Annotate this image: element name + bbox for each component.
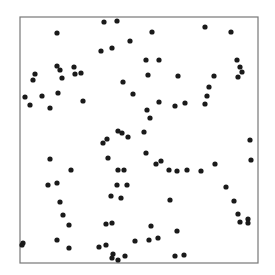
data-point: [239, 69, 244, 74]
data-point: [55, 90, 60, 95]
data-point: [149, 29, 154, 34]
data-point: [101, 19, 106, 24]
data-point: [39, 93, 44, 98]
data-point: [72, 71, 77, 76]
data-point: [105, 155, 110, 160]
data-point: [103, 242, 108, 247]
data-point: [120, 79, 125, 84]
data-point: [237, 64, 242, 69]
data-point: [54, 180, 59, 185]
data-point: [235, 74, 240, 79]
data-point: [80, 98, 85, 103]
data-point: [148, 223, 153, 228]
data-point: [143, 57, 148, 62]
data-point: [78, 70, 83, 75]
data-point: [156, 57, 161, 62]
data-point: [66, 245, 71, 250]
data-point: [167, 197, 172, 202]
data-point: [248, 157, 253, 162]
data-point: [119, 130, 124, 135]
data-point: [228, 29, 233, 34]
data-point: [202, 101, 207, 106]
data-point: [184, 167, 189, 172]
data-point: [141, 129, 146, 134]
data-point: [147, 115, 152, 120]
data-point: [153, 161, 158, 166]
data-point: [172, 253, 177, 258]
scatter-plot: [0, 0, 275, 275]
data-point: [235, 211, 240, 216]
data-point: [206, 84, 211, 89]
data-point: [66, 222, 71, 227]
data-point: [68, 167, 73, 172]
data-point: [54, 30, 59, 35]
data-point: [204, 93, 209, 98]
data-point: [182, 100, 187, 105]
data-point: [181, 252, 186, 257]
data-point: [59, 75, 64, 80]
data-point: [60, 212, 65, 217]
data-point: [57, 67, 62, 72]
data-point: [127, 38, 132, 43]
data-point: [146, 237, 151, 242]
data-point: [174, 168, 179, 173]
data-point: [109, 220, 114, 225]
data-point: [118, 195, 123, 200]
data-point: [100, 140, 105, 145]
data-point: [45, 182, 50, 187]
data-point: [114, 182, 119, 187]
data-point: [245, 220, 250, 225]
data-point: [98, 48, 103, 53]
data-point: [144, 107, 149, 112]
data-point: [175, 73, 180, 78]
data-point: [212, 161, 217, 166]
data-point: [96, 244, 101, 249]
data-point: [122, 253, 127, 258]
data-point: [19, 242, 24, 247]
data-point: [145, 72, 150, 77]
data-point: [54, 237, 59, 242]
data-point: [115, 167, 120, 172]
data-point: [124, 182, 129, 187]
data-point: [155, 235, 160, 240]
data-point: [231, 198, 236, 203]
data-point: [22, 94, 27, 99]
data-point: [132, 238, 137, 243]
data-point: [109, 255, 114, 260]
data-point: [125, 134, 130, 139]
data-points: [19, 18, 253, 262]
data-point: [156, 99, 161, 104]
data-point: [109, 45, 114, 50]
data-point: [114, 18, 119, 23]
plot-frame: [20, 17, 258, 263]
data-point: [198, 168, 203, 173]
data-point: [32, 71, 37, 76]
data-point: [172, 103, 177, 108]
data-point: [27, 102, 32, 107]
data-point: [234, 57, 239, 62]
data-point: [57, 199, 62, 204]
data-point: [166, 167, 171, 172]
data-point: [103, 221, 108, 226]
data-point: [223, 184, 228, 189]
data-point: [71, 64, 76, 69]
data-point: [202, 24, 207, 29]
data-point: [115, 257, 120, 262]
data-point: [130, 91, 135, 96]
data-point: [211, 73, 216, 78]
data-point: [158, 158, 163, 163]
data-point: [104, 136, 109, 141]
data-point: [108, 193, 113, 198]
data-point: [47, 105, 52, 110]
data-point: [30, 77, 35, 82]
data-point: [121, 167, 126, 172]
data-point: [47, 156, 52, 161]
data-point: [237, 219, 242, 224]
data-point: [174, 228, 179, 233]
data-point: [247, 137, 252, 142]
data-point: [143, 150, 148, 155]
